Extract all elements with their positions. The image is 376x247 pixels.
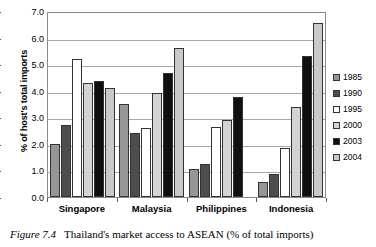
bar-indonesia-2004[interactable] xyxy=(313,23,323,197)
caption-text: Thailand's market access to ASEAN (% of … xyxy=(64,228,313,240)
category-tick-mark xyxy=(187,198,188,202)
x-axis-category-labels: SingaporeMalaysiaPhilippinesIndonesia xyxy=(47,203,326,214)
category-tick-mark xyxy=(47,198,48,202)
y-tick-mark xyxy=(0,12,1,13)
y-tick-label: 0.0 xyxy=(18,193,44,203)
y-tick-mark xyxy=(0,198,1,199)
legend-label: 1985 xyxy=(343,73,362,82)
legend-item-1985[interactable]: 1985 xyxy=(333,69,376,85)
bar-singapore-2003[interactable] xyxy=(94,81,104,197)
legend-item-1995[interactable]: 1995 xyxy=(333,101,376,117)
plot-area xyxy=(47,12,326,198)
bar-indonesia-1990[interactable] xyxy=(269,174,279,197)
legend-item-2004[interactable]: 2004 xyxy=(333,149,376,165)
bar-group-singapore xyxy=(48,13,117,197)
bar-groups xyxy=(48,13,325,197)
bar-indonesia-2003[interactable] xyxy=(302,56,312,197)
bar-malaysia-2000[interactable] xyxy=(152,93,162,197)
y-tick-mark xyxy=(0,118,1,119)
y-tick-label: 4.0 xyxy=(18,87,44,97)
bar-philippines-2000[interactable] xyxy=(222,120,232,197)
bar-singapore-2004[interactable] xyxy=(105,88,115,197)
legend-label: 1990 xyxy=(343,89,362,98)
y-tick-label: 5.0 xyxy=(18,60,44,70)
bar-indonesia-1985[interactable] xyxy=(258,182,268,197)
y-axis-tick-marks xyxy=(0,12,1,198)
bar-singapore-1995[interactable] xyxy=(72,59,82,197)
legend-label: 1995 xyxy=(343,105,362,114)
category-tick-mark xyxy=(117,198,118,202)
y-tick-mark xyxy=(0,39,1,40)
bar-singapore-1985[interactable] xyxy=(50,144,60,197)
legend-item-1990[interactable]: 1990 xyxy=(333,85,376,101)
legend-swatch-icon xyxy=(333,122,340,129)
bar-group-philippines xyxy=(187,13,256,197)
bar-malaysia-2003[interactable] xyxy=(163,73,173,197)
bar-philippines-1985[interactable] xyxy=(189,169,199,197)
y-tick-mark xyxy=(0,171,1,172)
y-tick-label: 3.0 xyxy=(18,113,44,123)
y-tick-mark xyxy=(0,145,1,146)
bar-singapore-1990[interactable] xyxy=(61,125,71,197)
category-tick-mark xyxy=(256,198,257,202)
legend: 198519901995200020032004 xyxy=(333,69,376,165)
x-label-philippines: Philippines xyxy=(187,203,257,214)
bar-group-indonesia xyxy=(256,13,325,197)
bar-malaysia-2004[interactable] xyxy=(174,48,184,197)
bar-singapore-2000[interactable] xyxy=(83,83,93,197)
bar-malaysia-1985[interactable] xyxy=(119,104,129,197)
bar-malaysia-1995[interactable] xyxy=(141,128,151,197)
legend-label: 2004 xyxy=(343,153,362,162)
legend-swatch-icon xyxy=(333,74,340,81)
category-tick-mark xyxy=(326,198,327,202)
bar-indonesia-2000[interactable] xyxy=(291,107,301,197)
bar-group-malaysia xyxy=(117,13,186,197)
bar-philippines-1995[interactable] xyxy=(211,127,221,197)
bar-philippines-1990[interactable] xyxy=(200,164,210,197)
legend-item-2000[interactable]: 2000 xyxy=(333,117,376,133)
bar-philippines-2003[interactable] xyxy=(233,97,243,197)
legend-label: 2003 xyxy=(343,137,362,146)
figure-number: Figure 7.4 xyxy=(10,228,56,240)
y-tick-mark xyxy=(0,65,1,66)
figure-caption: Figure 7.4Thailand's market access to AS… xyxy=(10,228,376,240)
legend-item-2003[interactable]: 2003 xyxy=(333,133,376,149)
y-axis-tick-labels: 7.06.05.04.03.02.01.00.0 xyxy=(18,6,44,202)
bar-indonesia-1995[interactable] xyxy=(280,148,290,197)
x-label-indonesia: Indonesia xyxy=(256,203,326,214)
bar-malaysia-1990[interactable] xyxy=(130,133,140,197)
x-label-malaysia: Malaysia xyxy=(117,203,187,214)
y-tick-label: 6.0 xyxy=(18,34,44,44)
y-tick-label: 2.0 xyxy=(18,140,44,150)
legend-swatch-icon xyxy=(333,138,340,145)
y-tick-mark xyxy=(0,92,1,93)
legend-label: 2000 xyxy=(343,121,362,130)
legend-swatch-icon xyxy=(333,106,340,113)
x-label-singapore: Singapore xyxy=(47,203,117,214)
y-tick-label: 7.0 xyxy=(18,7,44,17)
legend-swatch-icon xyxy=(333,90,340,97)
legend-swatch-icon xyxy=(333,154,340,161)
y-tick-label: 1.0 xyxy=(18,166,44,176)
figure-container: % of host's total imports 7.06.05.04.03.… xyxy=(0,0,376,247)
